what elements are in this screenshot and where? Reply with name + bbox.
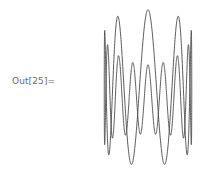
curve-line (104, 10, 192, 165)
parametric-3d-curve-graphic[interactable] (0, 0, 221, 176)
